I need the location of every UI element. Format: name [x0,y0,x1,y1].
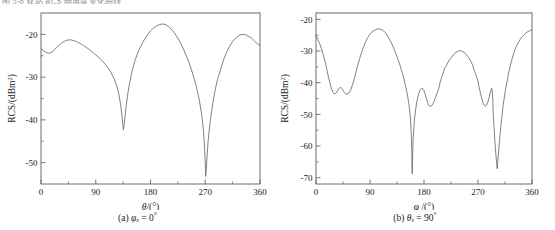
y-axis-title-main: RCS/(dBm [7,80,18,123]
y-axis-title-tail: ) [280,74,291,77]
y-tick-label: -30 [26,72,38,82]
x-axis-title: φ /(°) [414,202,434,210]
caption-panel-a: (a) φs = 0° [0,211,275,223]
rcs-phi-chart: 090180270360-20-30-40-50-60-70φ /(°)RCS/… [275,0,555,210]
y-tick-label: -30 [301,46,313,56]
plot-frame [316,13,532,184]
caption-b-degree: ° [434,211,437,220]
data-curve [316,29,532,174]
x-axis-title-unit: /(°) [146,202,159,210]
y-axis-title: RCS/(dBm2) [279,74,292,123]
y-tick-label: -20 [26,30,38,40]
y-tick-label: -40 [301,78,313,88]
x-tick-label: 0 [314,187,319,197]
plot-frame [41,13,260,184]
y-tick-label: -50 [301,110,313,120]
figure-root: 图 5-8 双站 RCS 随角度变化曲线 090180270360-20-30-… [0,0,555,230]
x-tick-label: 180 [417,187,431,197]
caption-a-prefix: (a) [118,213,129,223]
chart-panel-a: 090180270360-20-30-40-50θ/(°)RCS/(dBm2) [0,0,275,210]
caption-b-equals: = [416,213,421,223]
caption-b-prefix: (b) [393,213,404,223]
chart-panel-b: 090180270360-20-30-40-50-60-70φ /(°)RCS/… [275,0,555,210]
x-tick-label: 90 [91,187,101,197]
y-tick-label: -40 [26,115,38,125]
x-tick-label: 360 [525,187,539,197]
caption-b-subscript: s [411,216,414,223]
y-axis-title-main: RCS/(dBm [280,80,291,123]
caption-a-subscript: s [136,216,139,223]
y-tick-label: -50 [26,158,38,168]
x-tick-label: 0 [39,187,44,197]
caption-b-value: 90 [424,213,434,223]
x-tick-label: 90 [366,187,376,197]
x-tick-label: 360 [253,187,267,197]
x-tick-label: 270 [199,187,213,197]
data-curve [41,24,260,176]
y-axis-title-tail: ) [7,74,18,77]
y-tick-label: -70 [301,173,313,183]
y-tick-label: -20 [301,15,313,25]
x-axis-title-unit: /(°) [419,202,434,210]
x-tick-label: 270 [471,187,485,197]
y-axis-title: RCS/(dBm2) [6,74,19,123]
x-axis-title: θ/(°) [142,202,159,210]
caption-a-degree: ° [154,211,157,220]
caption-panel-b: (b) θs = 90° [275,211,555,223]
y-tick-label: -60 [301,141,313,151]
caption-a-equals: = [141,213,146,223]
rcs-theta-chart: 090180270360-20-30-40-50θ/(°)RCS/(dBm2) [0,0,275,210]
x-tick-label: 180 [144,187,158,197]
